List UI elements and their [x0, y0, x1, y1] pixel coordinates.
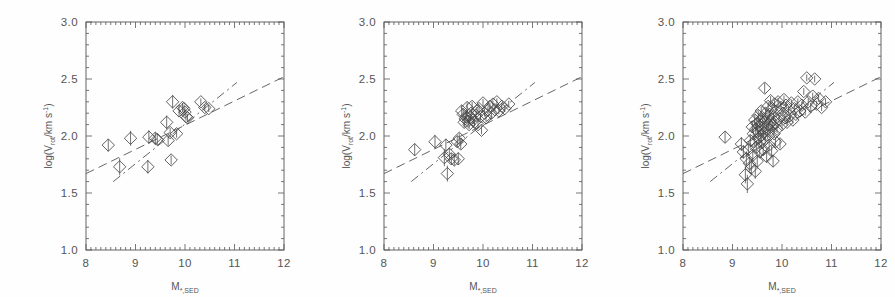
- x-tick-label: 12: [874, 257, 888, 269]
- data-point: [165, 154, 177, 166]
- fit-lines: [86, 77, 284, 182]
- y-tick-label: 3.0: [359, 16, 376, 28]
- panel-right: 891011121.01.52.02.53.0M*,SEDlog(Vrot/km…: [597, 0, 895, 297]
- y-tick-label: 2.0: [359, 130, 376, 142]
- x-axis-title: M*,SED: [171, 281, 198, 294]
- data-point: [102, 139, 114, 152]
- fit-lines: [384, 77, 582, 182]
- y-axis-title: log(Vrot/km s-1): [42, 104, 56, 169]
- plot-frame: [683, 22, 881, 250]
- y-axis-title: log(Vrot/km s-1): [340, 104, 354, 169]
- data-points: [719, 72, 832, 193]
- x-tick-label: 11: [825, 257, 838, 269]
- data-point: [124, 131, 136, 146]
- plot-panel-right: 891011121.01.52.02.53.0M*,SEDlog(Vrot/km…: [597, 0, 895, 297]
- x-tick-label: 8: [83, 257, 90, 269]
- x-axis-title: M*,SED: [768, 281, 795, 294]
- data-points: [408, 96, 514, 182]
- x-axis-title: M*,SED: [469, 281, 496, 294]
- x-tick-label: 9: [132, 257, 139, 269]
- x-tick-label: 8: [381, 257, 388, 269]
- axis-ticks: [86, 22, 284, 250]
- fit-line-dash-dot: [411, 82, 535, 181]
- y-tick-label: 2.0: [61, 130, 78, 142]
- y-tick-label: 1.5: [61, 187, 78, 199]
- x-tick-label: 10: [775, 257, 789, 269]
- fit-line-dashed: [86, 77, 284, 174]
- data-point: [455, 138, 467, 150]
- x-tick-label: 10: [476, 257, 490, 269]
- x-tick-label: 12: [575, 257, 589, 269]
- data-point: [503, 98, 515, 110]
- y-tick-label: 2.5: [359, 73, 376, 85]
- axis-tick-labels: 891011121.01.52.02.53.0: [61, 16, 291, 269]
- axis-tick-labels: 891011121.01.52.02.53.0: [359, 16, 589, 269]
- data-point: [719, 131, 731, 143]
- data-point: [741, 175, 753, 193]
- figure-container: 891011121.01.52.02.53.0M*,SEDlog(Vrot/km…: [0, 0, 895, 297]
- x-tick-label: 11: [228, 257, 241, 269]
- y-tick-label: 1.5: [359, 187, 376, 199]
- plot-frame: [384, 22, 582, 250]
- panel-left: 891011121.01.52.02.53.0M*,SEDlog(Vrot/km…: [0, 0, 298, 297]
- y-tick-label: 3.0: [658, 16, 675, 28]
- data-point: [438, 149, 450, 166]
- fit-line-dash-dot: [113, 82, 237, 181]
- y-tick-label: 1.0: [61, 244, 78, 256]
- data-points: [102, 95, 215, 175]
- plot-panel-middle: 891011121.01.52.02.53.0M*,SEDlog(Vrot/km…: [298, 0, 596, 297]
- axis-ticks: [384, 22, 582, 250]
- plot-panel-left: 891011121.01.52.02.53.0M*,SEDlog(Vrot/km…: [0, 0, 298, 297]
- y-tick-label: 3.0: [61, 16, 78, 28]
- x-tick-label: 9: [430, 257, 437, 269]
- x-tick-label: 9: [729, 257, 736, 269]
- fit-lines: [683, 77, 881, 182]
- y-tick-label: 2.5: [61, 73, 78, 85]
- y-tick-label: 2.5: [658, 73, 675, 85]
- panel-middle: 891011121.01.52.02.53.0M*,SEDlog(Vrot/km…: [298, 0, 596, 297]
- data-point: [441, 166, 453, 182]
- y-tick-label: 1.0: [658, 244, 675, 256]
- y-axis-title: log(Vrot/km s-1): [639, 104, 653, 169]
- data-point: [749, 164, 761, 179]
- data-point: [408, 143, 420, 156]
- y-tick-label: 1.0: [359, 244, 376, 256]
- axis-ticks: [683, 22, 881, 250]
- x-tick-label: 11: [526, 257, 539, 269]
- x-tick-label: 8: [680, 257, 687, 269]
- data-point: [758, 82, 770, 94]
- y-tick-label: 2.0: [658, 130, 675, 142]
- y-tick-label: 1.5: [658, 187, 675, 199]
- x-tick-label: 10: [178, 257, 192, 269]
- x-tick-label: 12: [277, 257, 291, 269]
- plot-frame: [86, 22, 284, 250]
- data-point: [142, 160, 154, 174]
